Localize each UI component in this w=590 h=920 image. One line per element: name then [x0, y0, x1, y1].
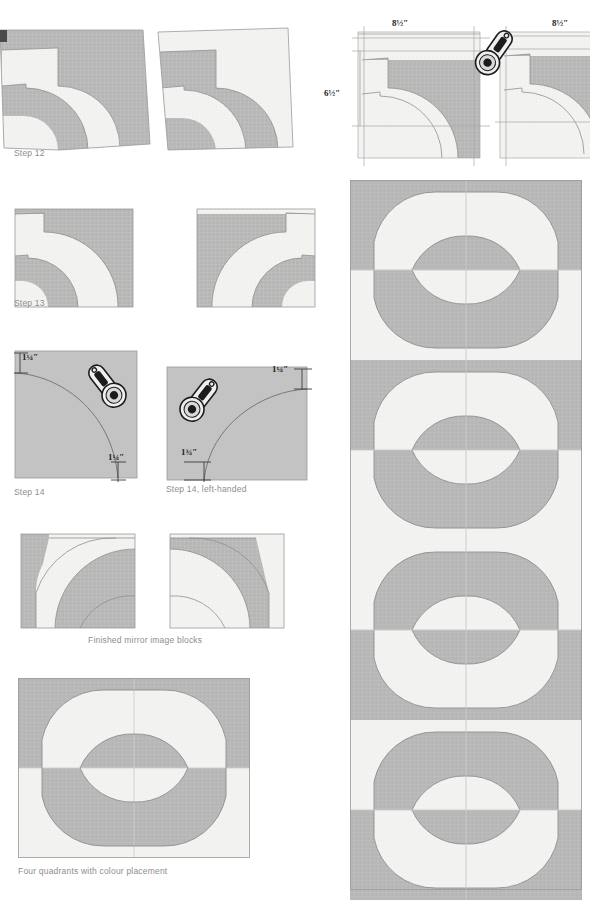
dimension-step14-bottom: 1¼″ [108, 452, 124, 462]
caption-step-14: Step 14 [14, 487, 45, 497]
right-column: 8½″ 6½″ 8½″ [340, 0, 590, 920]
caption-step-14-left-handed: Step 14, left-handed [166, 484, 247, 494]
step12-block-right [150, 22, 300, 152]
rotary-cutter-step-14 [78, 356, 134, 414]
quilt-ring-4 [350, 720, 582, 900]
figure-step-12 [0, 22, 300, 152]
step13-block-right [197, 209, 315, 307]
figure-trim-dimensions [340, 18, 590, 158]
figure-four-quadrants [18, 678, 250, 858]
step13-block-left [15, 209, 133, 307]
figure-step-13 [14, 208, 316, 310]
caption-step-13: Step 13 [14, 298, 45, 308]
quilt-ring-2 [350, 360, 582, 540]
step12-fabric-edge [0, 30, 7, 42]
caption-finished-blocks: Finished mirror image blocks [88, 635, 202, 645]
dimension-step14lh-bottom: 1¾″ [181, 447, 197, 457]
dimension-width-right: 8½″ [552, 18, 568, 28]
step12-block-left [0, 22, 152, 152]
instruction-page: Step 12 [0, 0, 590, 920]
left-column: Step 12 [0, 0, 340, 920]
dimension-step14lh-top: 1¼″ [272, 364, 288, 374]
caption-four-quadrants: Four quadrants with colour placement [18, 866, 167, 876]
quilt-ring-3 [350, 540, 582, 720]
dimension-height-left: 6½″ [324, 88, 340, 98]
caption-step-12: Step 12 [14, 148, 45, 158]
quilt-ring-1 [350, 180, 582, 360]
dimension-step14-top: 1¼″ [22, 352, 38, 362]
rotary-cutter-step-14-left-handed [172, 370, 228, 428]
dimension-width-left: 8½″ [392, 18, 408, 28]
finished-block-left [21, 534, 135, 628]
finished-block-right [170, 534, 284, 628]
figure-finished-blocks [20, 533, 285, 630]
figure-quilt-strip [350, 180, 582, 890]
rotary-cutter-trim [466, 22, 524, 82]
